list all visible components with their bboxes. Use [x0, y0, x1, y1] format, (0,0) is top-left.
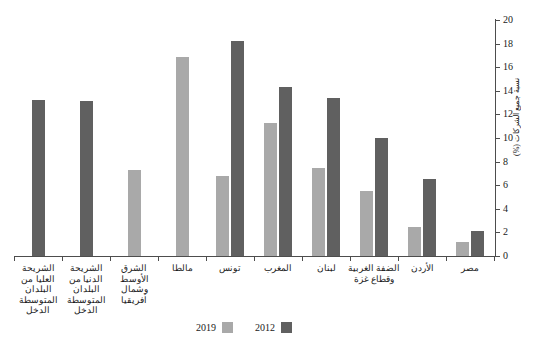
bar-2012-7: [375, 138, 388, 256]
legend-label-2019: 2019: [196, 323, 216, 333]
bar-2019-7: [360, 191, 373, 256]
bar-2019-5: [264, 123, 277, 256]
bar-2019-3: [176, 57, 189, 256]
x-tick-0: [14, 256, 15, 261]
y-axis-title: نسبة جميع الشركات (%): [512, 78, 528, 156]
x-axis-label-8: الأردن: [395, 263, 449, 274]
plot-area: [14, 20, 494, 256]
x-tick-3: [158, 256, 159, 261]
y-tick-label-4: 4: [503, 204, 508, 214]
chart-legend: 2019 2012: [196, 322, 292, 333]
y-tick-20: [496, 20, 500, 21]
x-axis-label-5: المغرب: [251, 263, 305, 274]
x-tick-8: [398, 256, 399, 261]
x-tick-4: [206, 256, 207, 261]
x-axis-label-1: الشريحة الدنيا من البلدان المتوسطة الدخل: [59, 263, 113, 316]
x-axis-label-4: تونس: [203, 263, 257, 274]
y-tick-label-6: 6: [503, 180, 508, 190]
x-tick-6: [302, 256, 303, 261]
bar-chart: 02468101214161820 نسبة جميع الشركات (%) …: [0, 0, 545, 348]
legend-item-2012[interactable]: 2012: [255, 322, 292, 333]
bar-2019-4: [216, 176, 229, 256]
y-tick-2: [496, 232, 500, 233]
y-tick-12: [496, 114, 500, 115]
bar-2012-0: [32, 100, 45, 256]
x-axis-label-2: الشرق الأوسط وشمال أفريقيا: [107, 263, 161, 305]
legend-swatch-2012-icon: [281, 322, 292, 333]
x-tick-5: [254, 256, 255, 261]
bar-2012-8: [423, 179, 436, 256]
y-tick-6: [496, 185, 500, 186]
bar-2019-2: [128, 170, 141, 256]
legend-label-2012: 2012: [255, 323, 275, 333]
y-tick-label-0: 0: [503, 251, 508, 261]
x-tick-10: [494, 256, 495, 261]
y-tick-label-16: 16: [503, 62, 513, 72]
legend-swatch-2019-icon: [222, 322, 233, 333]
x-tick-2: [110, 256, 111, 261]
x-axis-label-9: مصر: [443, 263, 497, 274]
y-tick-label-18: 18: [503, 39, 513, 49]
x-axis-label-6: لبنان: [299, 263, 353, 274]
y-tick-18: [496, 44, 500, 45]
bar-2012-9: [471, 231, 484, 256]
y-tick-0: [496, 256, 500, 257]
y-tick-label-20: 20: [503, 15, 513, 25]
bar-2019-6: [312, 168, 325, 257]
bar-2019-8: [408, 227, 421, 257]
x-axis-label-7: الضفة الغربية وقطاع غزة: [347, 263, 401, 284]
y-tick-10: [496, 138, 500, 139]
bar-2012-6: [327, 98, 340, 256]
y-tick-4: [496, 209, 500, 210]
x-axis-label-0: الشريحة العليا من البلدان المتوسطة الدخل: [11, 263, 65, 316]
y-tick-label-8: 8: [503, 157, 508, 167]
x-tick-9: [446, 256, 447, 261]
y-tick-16: [496, 67, 500, 68]
bar-2012-1: [80, 101, 93, 256]
x-axis-baseline: [14, 256, 496, 257]
y-tick-14: [496, 91, 500, 92]
bar-2019-9: [456, 242, 469, 256]
bar-2012-4: [231, 41, 244, 256]
y-tick-8: [496, 162, 500, 163]
x-axis-label-3: مالطا: [155, 263, 209, 274]
x-tick-1: [62, 256, 63, 261]
y-tick-label-2: 2: [503, 227, 508, 237]
legend-item-2019[interactable]: 2019: [196, 322, 233, 333]
bar-2012-5: [279, 87, 292, 256]
x-tick-7: [350, 256, 351, 261]
